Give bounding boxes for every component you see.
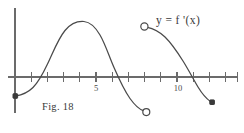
graph-canvas: 5 10 bbox=[0, 0, 244, 133]
figure-container: 5 10 y = f '(x) Fig. 18 bbox=[0, 0, 244, 133]
left-closed-endpoint-marker bbox=[13, 94, 18, 99]
x-tick-label-5: 5 bbox=[94, 83, 98, 93]
figure-caption: Fig. 18 bbox=[42, 101, 74, 112]
upper-open-endpoint-marker bbox=[141, 23, 148, 30]
lower-open-endpoint-marker bbox=[143, 109, 150, 116]
right-closed-endpoint-marker bbox=[210, 100, 215, 105]
x-tick-label-10: 10 bbox=[174, 83, 183, 93]
curve-equation-label: y = f '(x) bbox=[156, 14, 200, 26]
curve-branch-1 bbox=[16, 21, 144, 110]
